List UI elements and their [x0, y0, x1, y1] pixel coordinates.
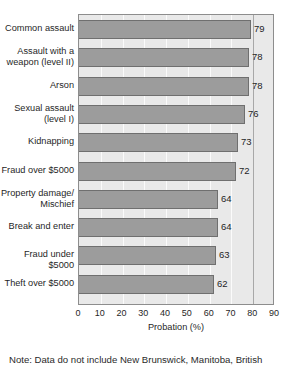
x-tick-label-90: 90 [269, 308, 279, 318]
x-tick-label-50: 50 [182, 308, 192, 318]
category-label-line: Arson [0, 80, 74, 91]
x-tick-label-40: 40 [160, 308, 170, 318]
category-label-line: Kidnapping [0, 136, 74, 147]
category-label: Arson [0, 80, 74, 91]
category-label-line: Fraud under $5000 [0, 249, 74, 270]
category-label: Common assault [0, 23, 74, 34]
bar-value-label: 78 [252, 76, 263, 95]
category-label: Sexual assault(level I) [0, 103, 74, 124]
x-tick-label-30: 30 [138, 308, 148, 318]
category-label: Break and enter [0, 221, 74, 232]
category-label-line: Break and enter [0, 221, 74, 232]
footer-note: Note: Data do not include New Brunswick,… [9, 354, 284, 366]
category-axis-labels: Common assaultAssault with aweapon (leve… [0, 14, 74, 305]
category-label-line: Property damage/ [0, 188, 74, 199]
bar-value-labels: 79787876737264646362 [78, 14, 274, 305]
bar-value-label: 76 [248, 104, 259, 123]
bar-value-label: 78 [252, 47, 263, 66]
x-axis-ticks: 0102030405060708090 [78, 305, 274, 323]
x-tick-label-20: 20 [117, 308, 127, 318]
category-label-line: Mischief [0, 199, 74, 210]
category-label-line: Fraud over $5000 [0, 165, 74, 176]
x-tick-label-0: 0 [75, 308, 80, 318]
bar-value-label: 63 [219, 245, 230, 264]
category-label: Assault with aweapon (level II) [0, 46, 74, 67]
category-label-line: Common assault [0, 23, 74, 34]
chart-page: Common assaultAssault with aweapon (leve… [0, 0, 289, 376]
x-axis-title: Probation (%) [78, 322, 274, 332]
category-label: Property damage/Mischief [0, 188, 74, 209]
category-label-line: Theft over $5000 [0, 278, 74, 289]
category-label: Theft over $5000 [0, 278, 74, 289]
category-label: Kidnapping [0, 136, 74, 147]
bar-value-label: 79 [254, 19, 265, 38]
bar-value-label: 73 [241, 132, 252, 151]
bar-value-label: 62 [217, 274, 228, 293]
bar-value-label: 64 [221, 189, 232, 208]
category-label-line: Assault with a [0, 46, 74, 57]
category-label-line: Sexual assault [0, 103, 74, 114]
x-tick-label-70: 70 [225, 308, 235, 318]
bar-value-label: 64 [221, 217, 232, 236]
category-label-line: (level I) [0, 114, 74, 125]
bar-value-label: 72 [239, 161, 250, 180]
x-tick-label-10: 10 [95, 308, 105, 318]
x-tick-label-80: 80 [247, 308, 257, 318]
category-label: Fraud under $5000 [0, 249, 74, 270]
bar-chart: Common assaultAssault with aweapon (leve… [0, 0, 289, 340]
category-label: Fraud over $5000 [0, 165, 74, 176]
x-tick-label-60: 60 [204, 308, 214, 318]
category-label-line: weapon (level II) [0, 57, 74, 68]
